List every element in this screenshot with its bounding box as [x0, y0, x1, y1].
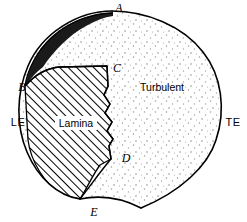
laminar-region-label: Lamina — [59, 117, 94, 129]
turbulent-region-label: Turbulent — [140, 81, 184, 93]
trailing-edge-label: TE — [225, 116, 240, 128]
point-label-b: B — [18, 80, 26, 94]
point-label-a: A — [114, 1, 123, 15]
figure-container: Lamina Turbulent A B C D E LE TE — [0, 0, 247, 222]
point-label-d: D — [121, 151, 131, 165]
blade-cross-section-diagram: Lamina Turbulent A B C D E LE TE — [0, 0, 247, 222]
point-label-e: E — [89, 205, 98, 219]
point-label-c: C — [113, 61, 122, 75]
leading-edge-label: LE — [11, 116, 25, 128]
